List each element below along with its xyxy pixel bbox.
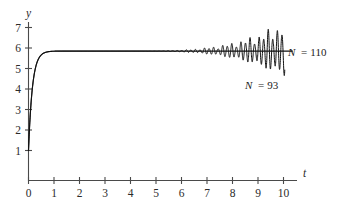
annotation-lower: N =93 [244,79,279,91]
x-tick-label-2: 2 [77,187,83,199]
annotation-n-93-text: N =93 [244,79,279,91]
x-tick-label-1: 1 [51,187,57,199]
x-tick-label-10: 10 [278,187,290,199]
y-tick-label-6: 6 [15,42,21,54]
x-axis-label: t [303,167,307,179]
annotation-lower-eqsym: = [258,79,264,91]
annotation-upper-eqsym: = [301,46,307,58]
y-tick-labels: 7 6 5 4 3 2 1 [15,22,21,157]
chart-svg: 7 6 5 4 3 2 1 0 1 2 3 4 5 6 7 8 9 10 y t [0,0,339,210]
annotation-lower-var: N [244,79,253,91]
x-tick-label-6: 6 [179,187,185,199]
x-tick-label-8: 8 [230,187,236,199]
annotation-lower-value: 93 [267,79,279,91]
y-tick-label-2: 2 [15,124,21,136]
x-tick-labels: 0 1 2 3 4 5 6 7 8 9 10 [26,187,290,199]
x-tick-label-0: 0 [26,187,32,199]
y-tick-label-3: 3 [15,104,21,116]
axes-group [29,22,298,181]
curve-n-110 [29,51,293,150]
chart-figure: 7 6 5 4 3 2 1 0 1 2 3 4 5 6 7 8 9 10 y t [0,0,339,210]
annotation-upper-var: N [287,46,296,58]
annotation-upper-value: 110 [310,46,327,58]
annotation-n-110-text: N =110 [287,46,327,58]
x-tick-label-5: 5 [153,187,159,199]
y-tick-label-7: 7 [15,22,21,34]
y-axis-label: y [25,7,32,20]
x-tick-label-9: 9 [255,187,261,199]
y-tick-label-1: 1 [15,145,21,157]
y-tick-label-4: 4 [15,83,21,95]
x-tick-label-4: 4 [128,187,134,199]
y-tick-label-5: 5 [15,63,21,75]
x-tick-label-7: 7 [204,187,210,199]
annotation-upper: N =110 [287,46,327,58]
data-curves [29,29,293,150]
x-tick-label-3: 3 [102,187,108,199]
